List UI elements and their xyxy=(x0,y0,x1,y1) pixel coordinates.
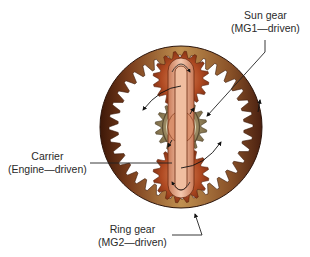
ring-gear-label-title: Ring gear xyxy=(98,223,167,236)
carrier-label-subtitle: (Engine—driven) xyxy=(8,163,87,176)
carrier-label-title: Carrier xyxy=(8,150,87,163)
carrier-label: Carrier (Engine—driven) xyxy=(8,150,87,176)
sun-gear-label-title: Sun gear xyxy=(231,9,300,22)
carrier xyxy=(168,58,194,198)
ring-gear-leader xyxy=(172,214,202,235)
sun-gear-label-subtitle: (MG1—driven) xyxy=(231,22,300,35)
planetary-gear-diagram xyxy=(0,0,310,257)
sun-gear-label: Sun gear (MG1—driven) xyxy=(231,9,300,35)
ring-gear-label: Ring gear (MG2—driven) xyxy=(98,223,167,249)
ring-gear-label-subtitle: (MG2—driven) xyxy=(98,236,167,249)
